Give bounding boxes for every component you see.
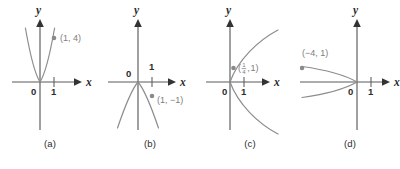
marked-point-dot: [231, 66, 236, 71]
panel-a: x y 0 1 (1, 4) (a): [0, 0, 100, 169]
x-axis-label: x: [179, 76, 186, 88]
y-axis-label: y: [351, 4, 359, 17]
marked-point-label: (1, −1): [157, 95, 183, 105]
marked-point-label: (−4, 1): [302, 48, 328, 58]
marked-point-dot: [52, 36, 57, 41]
x-axis-arrow-icon: [382, 78, 390, 86]
panel-b-caption: (b): [100, 138, 200, 149]
y-axis-arrow-icon: [353, 19, 361, 27]
panel-d-graph: x y 0 1 (−4, 1): [300, 0, 400, 140]
origin-label: 0: [348, 86, 353, 97]
x-tick-label-1: 1: [368, 86, 374, 97]
panel-c-caption: (c): [200, 138, 300, 149]
panel-c: x y 0 1 ( 1 4 , 1 ) (c): [200, 0, 300, 169]
origin-label: 0: [126, 68, 131, 79]
panel-c-graph: x y 0 1 ( 1 4 , 1 ): [200, 0, 300, 140]
panel-b-graph: x y 0 1 (1, −1): [100, 0, 200, 140]
panel-d-caption: (d): [300, 138, 400, 149]
panel-a-graph: x y 0 1 (1, 4): [0, 0, 100, 140]
origin-label: 0: [31, 86, 36, 97]
x-tick-label-1: 1: [149, 61, 155, 72]
x-axis-label: x: [273, 76, 280, 88]
x-axis-label: x: [85, 76, 92, 88]
marked-point-label: ( 1 4 , 1 ): [238, 62, 258, 75]
x-axis-arrow-icon: [262, 78, 270, 86]
y-axis-arrow-icon: [134, 19, 142, 27]
y-axis-arrow-icon: [226, 19, 234, 27]
panel-b: x y 0 1 (1, −1) (b): [100, 0, 200, 169]
panel-a-caption: (a): [0, 138, 100, 149]
x-tick-label-1: 1: [51, 86, 57, 97]
x-tick-label-1: 1: [241, 86, 247, 97]
marked-point-label: (1, 4): [60, 33, 81, 43]
marked-point-dot: [150, 94, 155, 99]
point-label-open-paren: (: [238, 63, 241, 73]
y-axis-label: y: [34, 4, 42, 17]
y-axis-label: y: [132, 4, 140, 17]
y-axis-arrow-icon: [36, 19, 44, 27]
point-label-fraction-denominator: 4: [242, 69, 246, 75]
origin-label: 0: [222, 86, 227, 97]
parabola-figure-panels: x y 0 1 (1, 4) (a) x y 0 1 (1,: [0, 0, 400, 169]
point-label-fraction-numerator: 1: [242, 62, 246, 68]
panel-d: x y 0 1 (−4, 1) (d): [300, 0, 400, 169]
point-label-close-paren: ): [255, 63, 258, 73]
x-axis-arrow-icon: [74, 78, 82, 86]
y-axis-label: y: [224, 4, 232, 17]
x-axis-label: x: [393, 76, 400, 88]
x-axis-arrow-icon: [168, 78, 176, 86]
point-label-comma: ,: [247, 63, 250, 73]
